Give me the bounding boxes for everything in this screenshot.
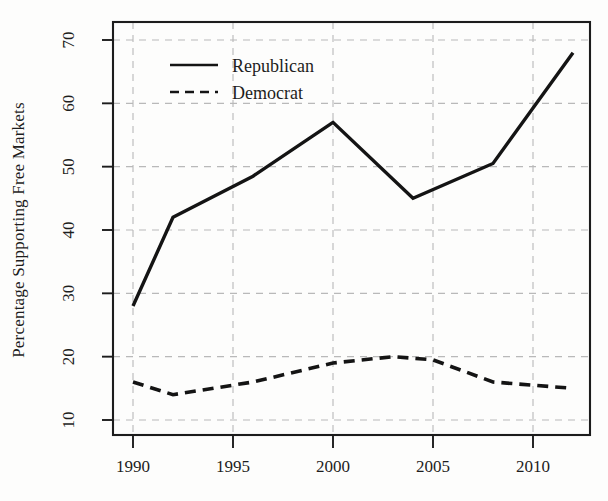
line-chart: Percentage Supporting Free Markets 10203… <box>0 0 608 501</box>
y-axis-tick-label: 30 <box>59 285 78 302</box>
x-axis-tick-label: 2005 <box>416 457 450 476</box>
legend-label-republican: Republican <box>232 56 314 76</box>
y-axis-tick-label: 50 <box>59 158 78 175</box>
x-axis-tick-label: 2010 <box>516 457 550 476</box>
y-axis-tick-label: 60 <box>59 95 78 112</box>
legend-label-democrat: Democrat <box>232 83 303 103</box>
x-axis-tick-label: 1995 <box>216 457 250 476</box>
y-axis-tick-label: 70 <box>59 32 78 49</box>
x-axis-tick-label: 2000 <box>316 457 350 476</box>
x-axis-tick-label: 1990 <box>116 457 150 476</box>
y-axis-tick-label: 10 <box>59 412 78 429</box>
y-axis-title: Percentage Supporting Free Markets <box>9 102 28 358</box>
y-axis-tick-label: 40 <box>59 222 78 239</box>
chart-figure: Percentage Supporting Free Markets 10203… <box>0 0 608 501</box>
y-axis-tick-label: 20 <box>59 348 78 365</box>
